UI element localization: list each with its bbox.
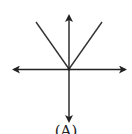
origin-point xyxy=(68,68,71,71)
upper-right-line xyxy=(69,22,102,69)
upper-left-line xyxy=(36,22,69,69)
vector-diagram xyxy=(0,0,132,134)
diagram-label: (A) xyxy=(0,124,132,134)
